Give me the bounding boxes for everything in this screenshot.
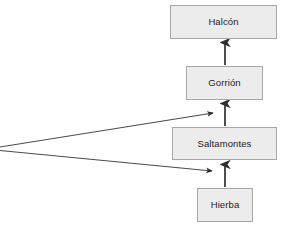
node-saltamontes[interactable]: Saltamontes: [172, 127, 277, 160]
node-gorrion-label: Gorrión: [208, 78, 240, 88]
node-halcon[interactable]: Halcón: [170, 5, 277, 39]
diagram-canvas: Halcón Gorrión Saltamontes Hierba: [0, 0, 291, 229]
node-gorrion[interactable]: Gorrión: [186, 66, 263, 100]
node-hierba[interactable]: Hierba: [197, 188, 253, 222]
node-saltamontes-label: Saltamontes: [198, 139, 252, 149]
node-hierba-label: Hierba: [211, 200, 240, 210]
node-halcon-label: Halcón: [208, 17, 238, 27]
